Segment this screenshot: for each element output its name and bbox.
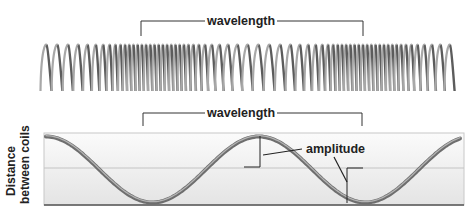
graph-box [44,133,464,205]
y-axis-label-line1: Distance [5,146,18,196]
y-axis-label-line2: between coils [19,125,32,204]
graph-wavelength-label: wavelength [205,106,277,120]
coil-spring [41,45,455,91]
amplitude-label: amplitude [304,142,367,156]
y-axis-label: Distance between coils [5,136,39,206]
coil-wavelength-label: wavelength [205,14,277,28]
